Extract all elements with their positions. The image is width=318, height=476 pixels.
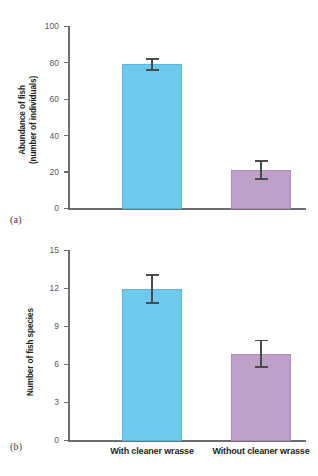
y-axis-tick-label: 6 <box>54 359 59 369</box>
y-axis-title-b-line1: Number of fish species <box>26 308 35 396</box>
y-axis-tick-label: 0 <box>54 203 59 213</box>
y-axis-tick: 20 <box>64 171 68 172</box>
chart-panel-b: (b) Number of fish species 03691215 <box>0 238 318 476</box>
y-axis-title-a-line2: (number of individuals) <box>29 76 38 164</box>
panel-label-a: (a) <box>10 214 22 225</box>
y-axis-tick: 15 <box>64 250 68 251</box>
y-axis-tick-label: 15 <box>50 245 59 255</box>
y-axis-line-b <box>68 250 70 442</box>
x-axis-label-without-cleaner-wrasse: Without cleaner wrasse <box>212 446 309 456</box>
y-axis-title-a-line1: Abundance of fish <box>18 85 27 155</box>
y-axis-tick-label: 20 <box>50 167 59 177</box>
error-bar-cap-lower <box>146 302 159 304</box>
y-axis-tick: 6 <box>64 364 68 365</box>
y-axis-tick-label: 12 <box>50 283 59 293</box>
error-bar-cap-upper <box>146 58 159 60</box>
y-axis-tick: 40 <box>64 135 68 136</box>
error-bar-cap-upper <box>255 340 268 342</box>
y-axis-tick: 100 <box>64 26 68 27</box>
y-axis-tick-label: 80 <box>50 58 59 68</box>
y-axis-title-a: Abundance of fish (number of individuals… <box>18 34 39 206</box>
y-axis-tick: 80 <box>64 62 68 63</box>
y-axis-title-b: Number of fish species <box>26 266 37 438</box>
error-bar-cap-lower <box>146 69 159 71</box>
bar-with-cleaner-wrasse <box>122 289 182 441</box>
error-bar-stem <box>151 274 153 304</box>
plot-area-b: 03691215 <box>68 250 306 442</box>
y-axis-tick-label: 0 <box>54 435 59 445</box>
x-axis-category-labels: With cleaner wrasseWithout cleaner wrass… <box>68 446 306 464</box>
y-axis-tick-label: 9 <box>54 321 59 331</box>
y-axis-tick: 12 <box>64 288 68 289</box>
y-axis-tick-label: 100 <box>45 21 59 31</box>
error-bar-cap-lower <box>255 366 268 368</box>
y-axis-tick: 0 <box>64 440 68 441</box>
error-bar-cap-upper <box>146 274 159 276</box>
y-axis-tick: 0 <box>64 208 68 209</box>
error-bar <box>255 160 268 180</box>
error-bar <box>255 340 268 368</box>
panel-label-b: (b) <box>10 441 22 452</box>
figure-cleaner-wrasse: (a) Abundance of fish (number of individ… <box>0 0 318 476</box>
y-axis-tick-label: 40 <box>50 131 59 141</box>
y-axis-tick: 9 <box>64 326 68 327</box>
y-axis-tick-label: 3 <box>54 397 59 407</box>
error-bar-stem <box>260 340 262 368</box>
error-bar-cap-lower <box>255 178 268 180</box>
chart-panel-a: (a) Abundance of fish (number of individ… <box>0 8 318 233</box>
plot-area-a: 020406080100 <box>68 26 306 210</box>
y-axis-tick: 3 <box>64 402 68 403</box>
error-bar <box>146 58 159 71</box>
y-axis-tick-label: 60 <box>50 94 59 104</box>
x-axis-label-with-cleaner-wrasse: With cleaner wrasse <box>110 446 194 456</box>
y-axis-line-a <box>68 26 70 210</box>
error-bar-cap-upper <box>255 160 268 162</box>
bar-with-cleaner-wrasse <box>122 64 182 209</box>
error-bar <box>146 274 159 304</box>
error-bar-stem <box>260 160 262 180</box>
y-axis-tick: 60 <box>64 99 68 100</box>
